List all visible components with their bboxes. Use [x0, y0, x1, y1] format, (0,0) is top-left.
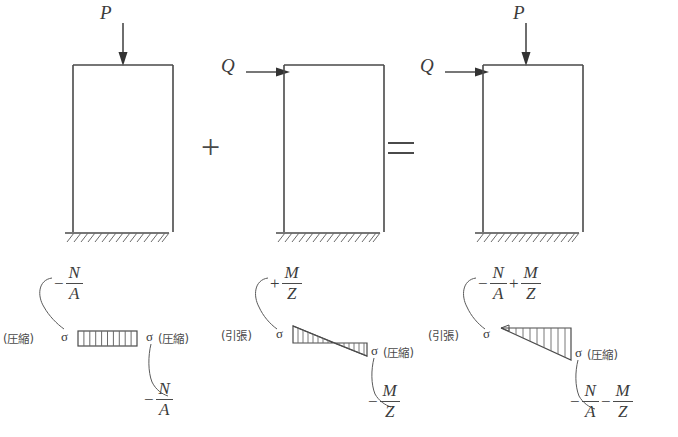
load-label-q-combined: Q — [420, 56, 434, 75]
load-label-p-combined: P — [513, 3, 525, 22]
stress-combined-group: − N A + M Z (引張) σ — [420, 258, 678, 437]
stress-combined-bottom-formula: − N A − M Z — [568, 382, 633, 421]
column-lateral-group: Q — [215, 0, 390, 250]
column-combined-outline — [478, 62, 598, 237]
column-axial-group: P — [0, 0, 210, 250]
fixed-support-lateral — [274, 231, 384, 249]
column-combined-group: P Q — [410, 0, 610, 250]
sign-minus-bottom-axial: − — [142, 391, 156, 408]
stress-superposition-figure: P — [0, 0, 678, 437]
stress-axial-group: − N A (圧縮) σ — [0, 258, 215, 437]
column-lateral-outline — [279, 62, 399, 237]
fixed-support-axial — [63, 231, 173, 249]
fixed-support-combined — [473, 231, 583, 249]
stress-combined-left-label: (引張) — [428, 327, 459, 343]
stress-axial-shape — [75, 326, 143, 352]
column-axial-outline — [68, 62, 188, 237]
sign-minus-bottom-combined-1: − — [568, 393, 582, 410]
fraction-m-over-z-bottom: M Z — [380, 382, 400, 421]
stress-axial-left-label: (圧縮) — [3, 330, 34, 346]
stress-bending-left-label: (引張) — [221, 327, 252, 343]
stress-bending-bottom-formula: − M Z — [366, 382, 400, 421]
sign-minus-bottom-combined-2: − — [599, 393, 613, 410]
load-label-q: Q — [221, 56, 235, 75]
load-label-p: P — [100, 3, 112, 22]
sign-minus-bottom-bending: − — [366, 393, 380, 410]
leader-line-top-axial — [30, 274, 90, 334]
stress-bending-group: + M Z (引張) σ — [215, 258, 430, 437]
stress-bending-left-sigma: σ — [276, 326, 283, 342]
stress-combined-left-sigma: σ — [483, 326, 490, 342]
fraction-m-over-z-bottom-combined: M Z — [613, 382, 633, 421]
stress-axial-bottom-formula: − N A — [142, 380, 173, 419]
fraction-n-over-a-bottom-combined: N A — [582, 382, 599, 421]
stress-bending-shape — [289, 318, 377, 364]
stress-axial-left-sigma: σ — [61, 329, 68, 345]
fraction-m-over-z-top-combined: M Z — [521, 264, 541, 303]
fraction-n-over-a-bottom: N A — [156, 380, 173, 419]
